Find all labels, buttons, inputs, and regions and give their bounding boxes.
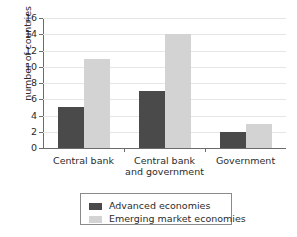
x-axis-line (43, 148, 286, 149)
y-tick-label: 14 (21, 29, 37, 39)
bar (165, 34, 191, 148)
legend-swatch (89, 216, 102, 223)
x-axis-category-label: Central bank and government (124, 155, 205, 177)
x-axis-category-label: Government (205, 155, 286, 166)
bar-chart: number of countries 0246810121416 Centra… (0, 0, 297, 237)
bar (220, 132, 246, 148)
y-tick-label: 10 (21, 62, 37, 72)
legend-swatch (89, 203, 102, 210)
bar (246, 124, 272, 148)
y-tick-label: 12 (21, 46, 37, 56)
y-tick-label: 16 (21, 13, 37, 23)
chart-legend: Advanced economiesEmerging market econom… (80, 193, 232, 225)
legend-label: Advanced economies (109, 201, 210, 211)
y-tick-label: 6 (21, 94, 37, 104)
legend-label: Emerging market economies (109, 214, 246, 224)
y-tick-label: 0 (21, 143, 37, 153)
gridline (43, 18, 286, 19)
plot-area (43, 18, 286, 148)
y-tick-label: 8 (21, 78, 37, 88)
bar (84, 59, 110, 148)
bar (58, 107, 84, 148)
x-axis-separator (124, 148, 125, 152)
x-axis-separator (205, 148, 206, 152)
y-tick-label: 4 (21, 111, 37, 121)
y-tick-label: 2 (21, 127, 37, 137)
bar (139, 91, 165, 148)
x-axis-category-label: Central bank (43, 155, 124, 166)
legend-item: Emerging market economies (89, 213, 246, 225)
legend-item: Advanced economies (89, 200, 210, 212)
